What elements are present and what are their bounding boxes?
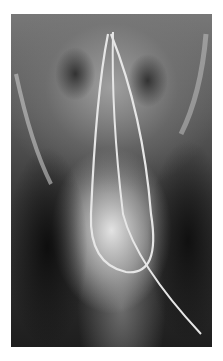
catheter-wire bbox=[11, 14, 212, 347]
xray-image bbox=[11, 14, 212, 347]
